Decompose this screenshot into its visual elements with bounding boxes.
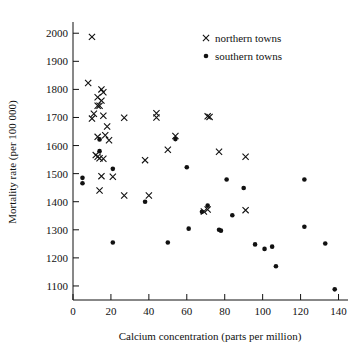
data-point-southern (332, 287, 337, 292)
data-point-northern (153, 114, 159, 120)
data-point-southern (111, 240, 116, 245)
data-point-southern (80, 176, 85, 181)
y-tick-label: 1300 (46, 224, 69, 236)
data-point-northern (85, 80, 91, 86)
data-point-southern (143, 199, 148, 204)
data-point-southern (97, 149, 102, 154)
y-tick-label: 1200 (46, 252, 69, 264)
data-point-southern (241, 186, 246, 191)
data-point-northern (142, 157, 148, 163)
y-tick-label: 1700 (46, 111, 69, 123)
data-point-northern (110, 174, 116, 180)
data-point-southern (205, 203, 210, 208)
x-tick-label: 20 (105, 305, 117, 317)
data-point-northern (98, 98, 104, 104)
legend-label: northern towns (215, 32, 281, 44)
data-point-northern (242, 154, 248, 160)
data-point-northern (96, 187, 102, 193)
x-tick-label: 120 (292, 305, 309, 317)
data-point-southern (80, 181, 85, 186)
legend-marker-dot (204, 54, 209, 59)
data-point-southern (173, 137, 178, 142)
data-point-northern (146, 192, 152, 198)
data-point-southern (274, 264, 279, 269)
data-point-southern (270, 244, 275, 249)
data-point-southern (230, 213, 235, 218)
y-tick-label: 1800 (46, 83, 69, 95)
legend-label: southern towns (215, 50, 282, 62)
data-point-southern (186, 226, 191, 231)
data-point-northern (216, 149, 222, 155)
y-tick-label: 1600 (46, 140, 69, 152)
data-point-northern (106, 137, 112, 143)
data-point-northern (89, 34, 95, 40)
x-tick-label: 80 (219, 305, 231, 317)
data-point-northern (100, 156, 106, 162)
data-point-southern (219, 228, 224, 233)
data-point-northern (165, 147, 171, 153)
data-point-southern (302, 224, 307, 229)
data-point-southern (166, 240, 171, 245)
x-tick-label: 140 (330, 305, 347, 317)
chart-legend: northern townssouthern towns (203, 32, 282, 62)
data-point-northern (121, 192, 127, 198)
y-axis-label: Mortality rate (per 100 000) (6, 100, 19, 224)
x-tick-label: 60 (181, 305, 193, 317)
data-point-northern (100, 89, 106, 95)
scatter-chart-figure: 1100120013001400150016001700180019002000… (0, 0, 362, 359)
legend-marker-x (203, 35, 209, 41)
plot-axes (73, 22, 348, 300)
data-point-southern (184, 165, 189, 170)
y-tick-label: 1100 (46, 280, 68, 292)
data-point-southern (262, 247, 267, 252)
data-point-southern (97, 137, 102, 142)
data-point-southern (200, 210, 205, 215)
data-point-northern (98, 173, 104, 179)
data-point-northern (100, 113, 106, 119)
data-point-northern (104, 123, 110, 129)
x-axis-ticks: 020406080100120140 (70, 294, 347, 317)
data-point-northern (121, 115, 127, 121)
y-tick-label: 1900 (46, 55, 69, 67)
data-point-northern (242, 207, 248, 213)
x-tick-label: 100 (254, 305, 271, 317)
data-point-southern (111, 167, 116, 172)
data-point-southern (302, 177, 307, 182)
series-southern-towns (80, 137, 337, 292)
x-axis-label: Calcium concentration (parts per million… (119, 330, 302, 343)
x-tick-label: 40 (143, 305, 155, 317)
data-point-southern (253, 242, 258, 247)
data-point-northern (102, 132, 108, 138)
data-point-southern (224, 177, 229, 182)
data-point-southern (323, 241, 328, 246)
y-tick-label: 2000 (46, 27, 69, 39)
scatter-plot-svg: 1100120013001400150016001700180019002000… (0, 0, 362, 359)
x-tick-label: 0 (70, 305, 76, 317)
y-tick-label: 1400 (46, 196, 69, 208)
y-tick-label: 1500 (46, 168, 69, 180)
y-axis-ticks: 1100120013001400150016001700180019002000 (46, 27, 79, 292)
